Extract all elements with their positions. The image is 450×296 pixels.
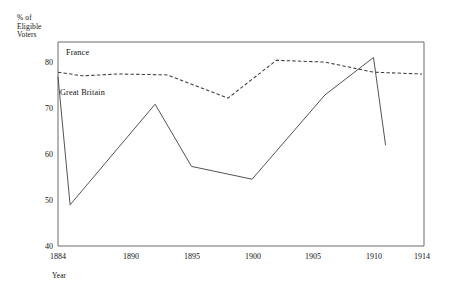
plot-frame — [58, 42, 424, 246]
france-series-line — [58, 60, 422, 98]
chart-plot — [0, 0, 450, 296]
chart-figure: % of Eligible Voters 80 70 60 50 40 1884… — [0, 0, 450, 296]
great-britain-series-line — [58, 58, 386, 205]
